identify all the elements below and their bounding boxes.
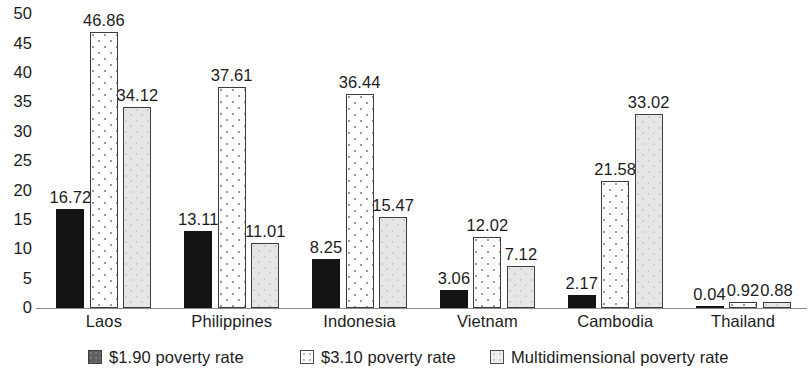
legend-item[interactable]: $3.10 poverty rate bbox=[300, 344, 456, 370]
bar bbox=[218, 87, 246, 308]
bar bbox=[729, 302, 757, 307]
bar-value-label: 12.02 bbox=[459, 217, 515, 234]
bar bbox=[568, 295, 596, 308]
bar bbox=[251, 243, 279, 308]
legend-swatch-dark bbox=[88, 350, 102, 364]
legend-item[interactable]: $1.90 poverty rate bbox=[88, 344, 244, 370]
x-axis-category-label: Indonesia bbox=[296, 312, 424, 330]
bar-value-label: 46.86 bbox=[76, 12, 132, 29]
bar-value-label: 33.02 bbox=[621, 94, 677, 111]
bar-value-label: 34.12 bbox=[109, 87, 165, 104]
plot-area: 05101520253035404550 16.7246.8634.12Laos… bbox=[0, 0, 811, 320]
chart-legend: $1.90 poverty rate$3.10 poverty rateMult… bbox=[0, 344, 811, 374]
bar-value-label: 7.12 bbox=[493, 246, 549, 263]
bar bbox=[90, 32, 118, 307]
bar bbox=[763, 302, 791, 307]
bar-value-label: 11.01 bbox=[237, 223, 293, 240]
legend-item[interactable]: Multidimensional poverty rate bbox=[490, 344, 729, 370]
bar bbox=[635, 114, 663, 308]
bar-chart: 05101520253035404550 16.7246.8634.12Laos… bbox=[0, 0, 811, 381]
bar bbox=[379, 217, 407, 308]
x-axis-category-label: Laos bbox=[40, 312, 168, 330]
legend-item-label: $3.10 poverty rate bbox=[321, 348, 456, 366]
x-axis-category-label: Vietnam bbox=[424, 312, 552, 330]
bar bbox=[507, 266, 535, 308]
bars-layer: 16.7246.8634.12Laos13.1137.6111.01Philip… bbox=[0, 0, 811, 320]
bar bbox=[312, 259, 340, 307]
bar-value-label: 36.44 bbox=[332, 74, 388, 91]
legend-item-label: $1.90 poverty rate bbox=[109, 348, 244, 366]
bar-value-label: 37.61 bbox=[204, 67, 260, 84]
bar bbox=[440, 290, 468, 308]
bar bbox=[696, 306, 724, 308]
bar bbox=[56, 209, 84, 307]
x-axis-category-label: Philippines bbox=[168, 312, 296, 330]
bar-value-label: 15.47 bbox=[365, 197, 421, 214]
bar bbox=[601, 181, 629, 308]
x-axis-category-label: Thailand bbox=[679, 312, 807, 330]
x-axis-category-label: Cambodia bbox=[551, 312, 679, 330]
bar bbox=[123, 107, 151, 307]
bar bbox=[184, 231, 212, 308]
legend-swatch-light bbox=[490, 350, 504, 364]
bar-value-label: 0.88 bbox=[749, 282, 805, 299]
legend-swatch-dotted bbox=[300, 350, 314, 364]
legend-item-label: Multidimensional poverty rate bbox=[511, 348, 729, 366]
